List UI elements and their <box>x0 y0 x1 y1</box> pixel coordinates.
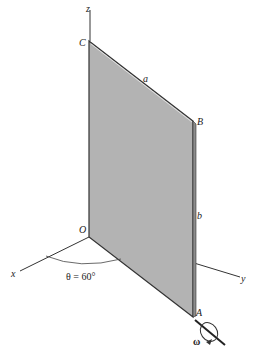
z-axis-label: z <box>85 3 90 14</box>
point-a-label: A <box>195 307 203 318</box>
point-c-label: C <box>79 37 86 48</box>
y-axis-label: y <box>240 273 246 284</box>
omega-label: ω <box>193 336 200 347</box>
x-axis <box>20 237 89 271</box>
dimension-b-label: b <box>197 210 202 221</box>
angle-arc <box>46 256 121 264</box>
point-o-label: O <box>79 224 86 235</box>
plate-edge <box>193 121 196 317</box>
rotation-arrowhead-icon <box>206 339 212 345</box>
angle-label: θ = 60° <box>66 271 95 282</box>
point-b-label: B <box>197 116 203 127</box>
x-axis-label: x <box>10 268 16 279</box>
diagram-canvas: z C a B b O x θ = 60° y A ω <box>0 0 257 355</box>
y-axis <box>194 263 240 277</box>
dimension-a-label: a <box>143 73 148 84</box>
